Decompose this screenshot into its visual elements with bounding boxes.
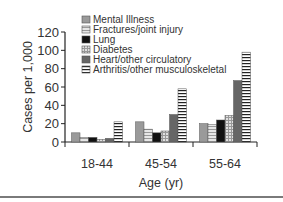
x-axis-label: Age (yr) <box>139 176 183 190</box>
bar <box>217 120 226 142</box>
bar <box>208 125 217 142</box>
legend-swatch <box>82 66 90 73</box>
y-tick-label: 0 <box>52 135 59 150</box>
y-tick-label: 120 <box>37 25 59 40</box>
y-axis-label: Cases per 1,000 <box>21 41 35 133</box>
bar <box>114 122 123 142</box>
bar-chart: 02040608010012018-4445-5455-64Age (yr)Ca… <box>0 0 283 202</box>
y-tick-label: 80 <box>45 61 59 76</box>
y-tick-label: 100 <box>37 43 59 58</box>
bar <box>144 129 153 142</box>
bar <box>136 122 145 142</box>
legend-swatch <box>82 46 90 53</box>
bar <box>170 115 179 143</box>
bar <box>242 52 251 142</box>
bar <box>72 133 81 142</box>
y-tick-label: 40 <box>45 98 59 113</box>
x-tick-label: 18-44 <box>81 157 113 171</box>
bar <box>161 131 170 142</box>
bottom-rule <box>0 196 283 198</box>
legend-swatch <box>82 16 90 23</box>
bar <box>225 115 234 142</box>
bar <box>178 89 187 142</box>
bar <box>234 81 243 142</box>
legend-label: Arthritis/other musculoskeletal <box>93 64 226 75</box>
x-tick-label: 45-54 <box>145 157 177 171</box>
bar <box>89 137 98 142</box>
legend-swatch <box>82 56 90 63</box>
bar <box>200 124 209 142</box>
legend-swatch <box>82 36 90 43</box>
bar <box>106 138 115 142</box>
bar <box>153 133 162 142</box>
bar <box>80 137 89 142</box>
y-tick-label: 20 <box>45 116 59 131</box>
y-tick-label: 60 <box>45 80 59 95</box>
x-tick-label: 55-64 <box>209 157 241 171</box>
legend-swatch <box>82 26 90 33</box>
bar <box>97 139 106 142</box>
